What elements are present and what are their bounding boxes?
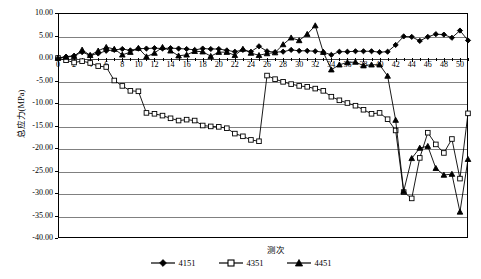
data-point (417, 38, 422, 43)
data-point (72, 60, 77, 65)
data-point (160, 113, 165, 118)
data-point (377, 111, 382, 116)
data-point (297, 48, 302, 53)
data-point (184, 46, 189, 51)
data-point (160, 44, 166, 49)
data-point (273, 77, 278, 82)
data-point (216, 125, 221, 130)
series-line (58, 26, 468, 212)
data-point (80, 59, 85, 64)
legend-item-4351[interactable]: 4351 (218, 258, 264, 268)
data-point (433, 32, 438, 37)
data-point (458, 176, 463, 181)
data-point (128, 89, 133, 94)
data-point (434, 142, 439, 147)
data-point (313, 49, 318, 54)
data-point (96, 64, 101, 69)
data-point (353, 103, 358, 108)
data-point (289, 47, 294, 52)
data-point (200, 123, 205, 128)
data-point (152, 112, 157, 117)
data-point (353, 49, 358, 54)
data-point (168, 116, 173, 121)
data-point (377, 50, 382, 55)
data-point (192, 118, 197, 123)
data-point (208, 53, 214, 58)
data-point (466, 111, 471, 116)
data-point (312, 23, 318, 28)
data-point (136, 89, 141, 94)
data-point (425, 34, 430, 39)
data-point (369, 49, 374, 54)
legend-marker-diamond-icon (150, 258, 176, 268)
legend-label-4451: 4451 (315, 259, 332, 268)
data-point (120, 46, 125, 51)
data-point (95, 48, 101, 53)
data-point (449, 171, 455, 176)
data-point (409, 34, 414, 39)
data-point (120, 84, 125, 89)
stress-line-chart: 总应力(MPa) 10.005.000.00-5.00-10.00-15.00-… (0, 0, 481, 279)
data-point (249, 138, 254, 143)
data-point (184, 52, 190, 57)
series-line (58, 31, 468, 58)
legend-label-4351: 4351 (247, 259, 264, 268)
data-point (441, 32, 446, 37)
data-point (409, 196, 414, 201)
data-point (337, 98, 342, 103)
series-4351 (56, 56, 471, 201)
data-point (425, 143, 431, 148)
data-point (442, 151, 447, 156)
data-point (152, 50, 158, 55)
data-point (208, 46, 213, 51)
legend-item-4451[interactable]: 4451 (286, 258, 332, 268)
data-point (329, 94, 334, 99)
series-layer (0, 0, 481, 279)
data-point (176, 118, 181, 123)
data-point (361, 107, 366, 112)
data-point (337, 49, 342, 54)
data-point (329, 52, 334, 57)
data-point (103, 44, 109, 49)
chart-legend: 4151 4351 4451 (0, 258, 481, 268)
data-point (417, 156, 422, 161)
data-point (280, 49, 285, 54)
data-point (184, 117, 189, 122)
data-point (257, 139, 262, 144)
data-point (265, 73, 270, 78)
data-point (281, 80, 286, 85)
data-point (233, 131, 238, 136)
legend-label-4151: 4151 (179, 259, 196, 268)
data-point (208, 124, 213, 129)
data-point (297, 84, 302, 89)
data-point (305, 48, 310, 53)
data-point (241, 134, 246, 139)
data-point (112, 78, 117, 83)
data-point (288, 35, 294, 40)
data-point (450, 137, 455, 142)
series-4451 (55, 23, 471, 214)
data-point (256, 44, 261, 49)
data-point (329, 67, 335, 72)
data-point (426, 130, 431, 135)
data-point (385, 117, 390, 122)
data-point (88, 61, 93, 66)
data-point (465, 156, 471, 161)
data-point (144, 46, 149, 51)
data-point (345, 101, 350, 106)
legend-item-4151[interactable]: 4151 (150, 258, 196, 268)
data-point (144, 111, 149, 116)
data-point (457, 209, 463, 214)
data-point (433, 165, 439, 170)
data-point (361, 49, 366, 54)
data-point (345, 49, 350, 54)
legend-marker-square-icon (218, 258, 244, 268)
data-point (104, 65, 109, 70)
legend-marker-triangle-icon (286, 258, 312, 268)
data-point (289, 82, 294, 87)
data-point (79, 47, 85, 52)
data-point (225, 126, 230, 131)
series-line (58, 58, 468, 198)
data-point (176, 46, 181, 51)
data-point (305, 85, 310, 90)
